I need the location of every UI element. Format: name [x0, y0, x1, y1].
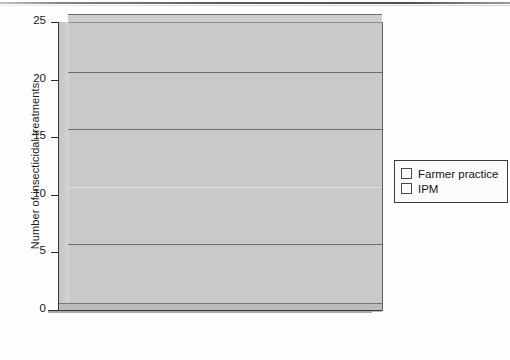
y-tick-mark-25 [51, 22, 58, 23]
plot-area [58, 22, 383, 311]
legend-swatch-farmer-practice [401, 168, 412, 179]
y-tick-mark-15 [51, 137, 58, 138]
y-tick-mark-5 [51, 252, 58, 253]
y-tick-label-25: 25 [20, 14, 46, 26]
plot-left-depth-face [58, 22, 69, 310]
gridline-5 [68, 244, 382, 245]
gridline-10 [68, 187, 382, 188]
legend-label-ipm: IPM [418, 183, 438, 195]
legend-item-ipm: IPM [401, 181, 499, 196]
legend-swatch-ipm [401, 183, 412, 194]
y-tick-mark-20 [51, 80, 58, 81]
scan-artifact-line [0, 2, 510, 4]
gridline-15 [68, 129, 382, 130]
legend-item-farmer-practice: Farmer practice [401, 166, 499, 181]
legend-label-farmer-practice: Farmer practice [418, 168, 499, 180]
x-axis-line [48, 310, 382, 311]
legend: Farmer practice IPM [394, 160, 508, 203]
gridline-20 [68, 72, 382, 73]
y-tick-label-0: 0 [20, 302, 46, 314]
y-axis-line [58, 22, 59, 311]
scan-artifact-line-secondary [0, 5, 510, 6]
y-tick-mark-10 [51, 195, 58, 196]
gridline-25 [68, 14, 382, 15]
y-tick-mark-0 [51, 310, 58, 311]
chart-figure: 2520151050 Number of insecticidal treatm… [0, 0, 510, 360]
y-axis-label: Number of insecticidal treatments [29, 46, 41, 286]
